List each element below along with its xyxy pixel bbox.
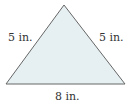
left-side-length-label: 5 in. (8, 32, 33, 43)
right-side-length-label: 5 in. (99, 32, 124, 43)
base-length-label: 8 in. (55, 91, 80, 102)
triangle-diagram (0, 0, 131, 103)
triangle-shape (6, 5, 125, 84)
